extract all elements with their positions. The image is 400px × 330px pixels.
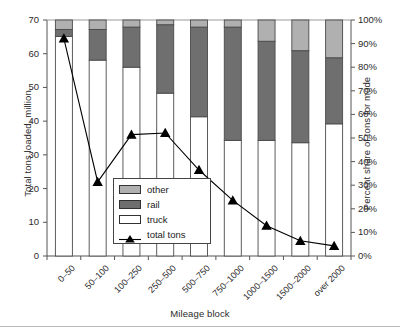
- bar-segment-truck: [258, 140, 275, 256]
- bar-segment-rail: [258, 41, 275, 140]
- y-axis-right-tick-label: 70%: [358, 85, 388, 96]
- bar-segment-rail: [157, 25, 174, 93]
- bar-segment-other: [123, 20, 140, 27]
- y-axis-left-tick-label: 60: [17, 48, 39, 59]
- legend-item[interactable]: truck: [114, 212, 210, 227]
- bar-segment-rail: [191, 27, 208, 117]
- legend-swatch-icon: [119, 185, 141, 194]
- legend-item-label: truck: [147, 214, 168, 225]
- y-axis-right-tick-label: 0%: [358, 250, 388, 261]
- y-axis-left-tick-label: 70: [17, 14, 39, 25]
- bar-segment-rail: [292, 51, 309, 143]
- legend-item-label: total tons: [147, 229, 186, 240]
- y-axis-left-tick-label: 50: [17, 81, 39, 92]
- y-axis-left-tick-label: 10: [17, 216, 39, 227]
- y-axis-right-tick-label: 80%: [358, 61, 388, 72]
- bar-segment-other: [326, 20, 343, 58]
- y-axis-left-tick-label: 30: [17, 149, 39, 160]
- bar-segment-truck: [55, 37, 72, 256]
- page-bottom-divider: [0, 326, 400, 327]
- legend-item[interactable]: total tons: [114, 227, 210, 242]
- bar-segment-other: [157, 20, 174, 25]
- y-axis-right-tick-label: 30%: [358, 179, 388, 190]
- bar-segment-other: [292, 20, 309, 51]
- y-axis-right-tick-label: 10%: [358, 226, 388, 237]
- y-axis-right-tick-label: 20%: [358, 203, 388, 214]
- bar-segment-rail: [224, 27, 241, 140]
- legend-line-marker-icon: [119, 230, 141, 239]
- y-axis-right-tick-label: 60%: [358, 108, 388, 119]
- bar-segment-other: [55, 20, 72, 29]
- y-axis-right-tick-label: 100%: [358, 14, 388, 25]
- legend-item-label: rail: [147, 199, 160, 210]
- y-axis-right-tick-label: 90%: [358, 38, 388, 49]
- legend-item[interactable]: other: [114, 182, 210, 197]
- y-axis-left-tick-label: 20: [17, 183, 39, 194]
- bar-segment-rail: [326, 58, 343, 124]
- legend-item-label: other: [147, 184, 169, 195]
- y-axis-right-tick-label: 40%: [358, 156, 388, 167]
- bar-segment-other: [191, 20, 208, 27]
- bar-segment-other: [89, 20, 106, 29]
- bar-segment-rail: [123, 27, 140, 67]
- chart-legend: otherrailtrucktotal tons: [113, 178, 211, 244]
- legend-swatch-icon: [119, 200, 141, 209]
- bar-segment-other: [258, 20, 275, 41]
- chart-container: Total tons loaded, million Percent share…: [0, 0, 400, 330]
- bar-segment-rail: [89, 29, 106, 60]
- y-axis-left-tick-label: 40: [17, 115, 39, 126]
- bar-segment-truck: [326, 124, 343, 256]
- y-axis-left-tick-label: 0: [17, 250, 39, 261]
- bar-segment-other: [224, 20, 241, 27]
- y-axis-right-tick-label: 50%: [358, 132, 388, 143]
- legend-item[interactable]: rail: [114, 197, 210, 212]
- legend-swatch-icon: [119, 215, 141, 224]
